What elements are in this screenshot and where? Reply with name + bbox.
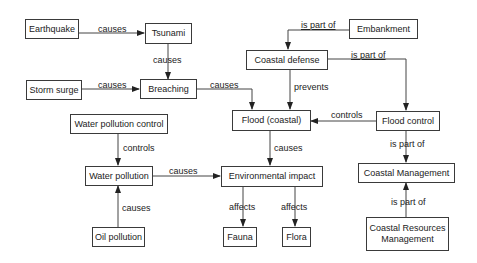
edge-defense-floodcontrol	[327, 59, 406, 110]
edge-label-wp-env: causes	[169, 166, 198, 176]
node-environmental-impact[interactable]: Environmental impact	[221, 166, 323, 187]
edge-label-floodcontrol-cm: is part of	[390, 139, 425, 149]
edge-label-floodcontrol-flood: controls	[331, 110, 363, 120]
concept-map-canvas: Earthquake Tsunami Storm surge Breaching…	[0, 0, 477, 263]
node-label: Flood (coastal)	[242, 115, 302, 126]
node-label: Breaching	[148, 84, 189, 95]
edge-label-stormsurge-breaching: causes	[98, 80, 127, 90]
edge-label-env-flora: affects	[281, 202, 307, 212]
edge-label-defense-flood: prevents	[294, 82, 329, 92]
node-label: Coastal Resources Management	[367, 223, 448, 245]
edge-label-env-fauna: affects	[229, 202, 255, 212]
edge-label-breaching-flood: causes	[210, 80, 239, 90]
node-label: Water pollution control	[74, 119, 163, 130]
node-label: Water pollution	[89, 171, 149, 182]
node-label: Flora	[286, 232, 307, 243]
node-flora[interactable]: Flora	[282, 227, 311, 247]
edge-label-crm-cm: is part of	[391, 197, 426, 207]
node-label: Fauna	[227, 232, 253, 243]
node-label: Oil pollution	[95, 232, 142, 243]
node-tsunami[interactable]: Tsunami	[145, 23, 192, 44]
edge-label-wpc-wp: controls	[123, 143, 155, 153]
edge-breaching-flood	[196, 89, 252, 109]
node-coastal-defense[interactable]: Coastal defense	[246, 50, 328, 70]
node-label: Flood control	[382, 116, 434, 127]
node-label: Storm surge	[29, 85, 78, 96]
node-flood-control[interactable]: Flood control	[376, 111, 440, 131]
edge-label-defense-floodcontrol: is part of	[351, 50, 386, 60]
node-earthquake[interactable]: Earthquake	[25, 19, 79, 39]
edge-embankment-defense	[288, 30, 349, 49]
node-oil-pollution[interactable]: Oil pollution	[92, 227, 145, 247]
node-water-pollution[interactable]: Water pollution	[85, 166, 153, 186]
edge-label-oil-wp: causes	[122, 203, 151, 213]
node-label: Coastal Management	[364, 168, 450, 179]
node-label: Coastal defense	[254, 55, 319, 66]
edge-label-flood-env: causes	[274, 143, 303, 153]
node-breaching[interactable]: Breaching	[140, 79, 197, 99]
node-label: Earthquake	[29, 24, 75, 35]
edge-label-earthquake-tsunami: causes	[98, 24, 127, 34]
node-water-pollution-control[interactable]: Water pollution control	[70, 114, 168, 134]
node-fauna[interactable]: Fauna	[223, 227, 257, 247]
node-storm-surge[interactable]: Storm surge	[26, 80, 82, 100]
node-coastal-management[interactable]: Coastal Management	[358, 163, 455, 183]
edge-label-tsunami-breaching: causes	[153, 55, 182, 65]
node-label: Environmental impact	[229, 171, 316, 182]
node-label: Tsunami	[152, 28, 186, 39]
node-coastal-resources-management[interactable]: Coastal Resources Management	[366, 217, 449, 251]
node-flood-coastal[interactable]: Flood (coastal)	[232, 110, 311, 131]
node-label: Embankment	[357, 24, 410, 35]
edge-label-embankment-defense: is part of	[301, 20, 336, 30]
node-embankment[interactable]: Embankment	[349, 19, 418, 39]
